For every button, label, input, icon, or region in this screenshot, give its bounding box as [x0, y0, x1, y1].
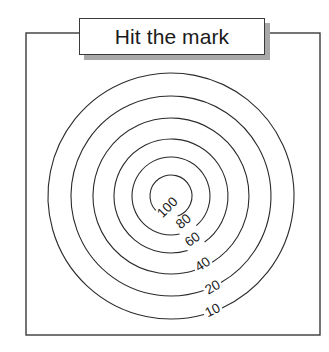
contour-label-20: 20 — [202, 277, 223, 298]
contour-label-40: 40 — [192, 254, 213, 275]
figure-container: 1020406080100 Hit the mark — [0, 0, 329, 352]
contour-label-10: 10 — [203, 300, 223, 320]
contour-label-80: 80 — [173, 211, 194, 232]
contour-label-60: 60 — [182, 229, 203, 250]
title-box: Hit the mark — [79, 18, 265, 55]
page-title: Hit the mark — [115, 26, 229, 47]
contour-labels: 1020406080100 — [154, 194, 223, 320]
plot-frame — [26, 33, 320, 335]
